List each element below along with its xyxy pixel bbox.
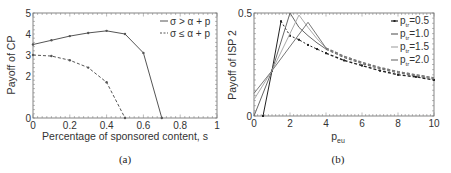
y-axis-label-a: Payoff of CP bbox=[5, 36, 17, 95]
legend-entry: ptr=1.0 bbox=[391, 28, 429, 41]
legend-label-value: =1.0 bbox=[409, 28, 429, 39]
series-line-fall bbox=[308, 22, 326, 48]
x-tick-label: 6 bbox=[359, 118, 365, 129]
series-group-a bbox=[32, 30, 163, 120]
data-point bbox=[124, 117, 126, 119]
legend-label-value: =1.5 bbox=[409, 41, 429, 52]
series-2 bbox=[32, 54, 126, 119]
series-3 bbox=[254, 15, 434, 99]
y-tick-label: 0 bbox=[246, 111, 252, 122]
data-point bbox=[298, 39, 300, 41]
legend-label: ptr=2.0 bbox=[400, 54, 429, 67]
data-point bbox=[32, 43, 34, 45]
data-point bbox=[105, 30, 107, 32]
series-line-rise bbox=[263, 21, 281, 116]
series-1 bbox=[32, 30, 163, 120]
x-tick-label: 0 bbox=[30, 120, 36, 131]
series-line-rise bbox=[254, 13, 290, 116]
legend-label: σ > α + p bbox=[170, 16, 211, 27]
chart-b: 0246810 00.5 peu Payoff of ISP 2 (b) ptr… bbox=[226, 8, 440, 167]
data-point bbox=[50, 39, 52, 41]
legend-label: σ ≤ α + p bbox=[170, 28, 210, 39]
legend-entry: ptr=0.5 bbox=[391, 15, 429, 28]
data-point bbox=[316, 48, 318, 50]
legend-entry: σ > α + p bbox=[160, 16, 211, 27]
data-point bbox=[325, 52, 327, 54]
y-tick-label: 0 bbox=[25, 113, 31, 124]
series-4 bbox=[254, 22, 434, 93]
data-point bbox=[307, 44, 309, 46]
data-point bbox=[87, 32, 89, 34]
data-point bbox=[142, 52, 144, 54]
y-tick-label: 3 bbox=[25, 50, 31, 61]
data-point bbox=[105, 81, 107, 83]
legend-label: ptr=1.0 bbox=[400, 28, 429, 41]
data-point bbox=[262, 115, 264, 117]
y-tick-label: 5 bbox=[25, 8, 31, 19]
legend-label-value: =2.0 bbox=[409, 54, 429, 65]
data-point bbox=[361, 65, 363, 67]
x-axis-label-a: Percentage of sponsored content, s bbox=[42, 130, 208, 142]
data-point bbox=[87, 66, 89, 68]
y-axis-label-b: Payoff of ISP 2 bbox=[226, 30, 238, 100]
data-point bbox=[50, 55, 52, 57]
legend-entry: ptr=1.5 bbox=[391, 41, 429, 54]
legend-label: ptr=0.5 bbox=[400, 15, 429, 28]
x-axis-label-b: peu bbox=[331, 130, 345, 144]
caption-b: (b) bbox=[332, 153, 345, 166]
x-tick-labels-b: 0246810 bbox=[251, 118, 440, 129]
series-line bbox=[33, 55, 125, 118]
y-tick-label: 4 bbox=[25, 29, 31, 40]
legend-entry: σ ≤ α + p bbox=[160, 28, 210, 39]
x-tick-label: 10 bbox=[428, 118, 440, 129]
legend-a: σ > α + p σ ≤ α + p bbox=[160, 16, 211, 39]
legend-label: ptr=1.5 bbox=[400, 41, 429, 54]
series-line bbox=[33, 31, 162, 118]
legend-label-value: =0.5 bbox=[409, 15, 429, 26]
data-point bbox=[379, 70, 381, 72]
y-tick-labels-a: 02345 bbox=[25, 8, 31, 124]
legend-entry: ptr=2.0 bbox=[391, 54, 429, 67]
y-tick-label: 0.5 bbox=[238, 8, 252, 19]
data-point bbox=[397, 74, 399, 76]
series-line-fall bbox=[290, 13, 326, 49]
x-tick-label: 8 bbox=[395, 118, 401, 129]
x-tick-label: 2 bbox=[287, 118, 293, 129]
data-point bbox=[161, 117, 163, 119]
x-tick-label: 4 bbox=[323, 118, 329, 129]
data-point bbox=[32, 54, 34, 56]
series-line-rise bbox=[254, 22, 308, 93]
y-tick-labels-b: 00.5 bbox=[238, 8, 252, 122]
data-point bbox=[280, 20, 282, 22]
data-point bbox=[343, 59, 345, 61]
x-tick-label: 1 bbox=[214, 120, 220, 131]
y-tick-label: 2 bbox=[25, 71, 31, 82]
x-axis-label-sub: eu bbox=[337, 137, 345, 144]
legend-marker bbox=[394, 20, 396, 22]
chart-a: 00.20.40.60.81 02345 Percentage of spons… bbox=[5, 8, 220, 167]
data-point bbox=[124, 33, 126, 35]
data-point bbox=[69, 35, 71, 37]
data-point bbox=[69, 59, 71, 61]
x-tick-label: 0 bbox=[251, 118, 257, 129]
legend-b: ptr=0.5ptr=1.0ptr=1.5ptr=2.0 bbox=[391, 15, 429, 67]
figure: 00.20.40.60.81 02345 Percentage of spons… bbox=[0, 0, 451, 173]
caption-a: (a) bbox=[119, 153, 132, 166]
